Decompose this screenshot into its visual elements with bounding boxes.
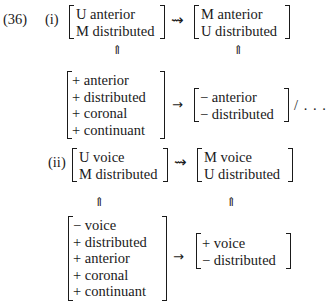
rule-left-matrix-ii: U voice M distributed xyxy=(72,148,168,182)
matrix-row: M distributed xyxy=(79,166,158,183)
right-bracket xyxy=(160,5,165,39)
double-up-arrow-icon: ⇑ xyxy=(94,196,104,208)
matrix-row: − distributed xyxy=(200,106,274,123)
rule-right-matrix-i: M anterior U distributed xyxy=(194,5,290,39)
matrix-row: U anterior xyxy=(76,6,155,23)
right-arrow-icon: → xyxy=(173,250,184,263)
example-number: (36) xyxy=(3,12,27,27)
rule-left-matrix-i: U anterior M distributed xyxy=(69,5,165,39)
matrix-row: − anterior xyxy=(200,89,274,106)
matrix-row: + distributed xyxy=(73,234,147,251)
matrix-row: + coronal xyxy=(73,267,147,284)
matrix-row: + anterior xyxy=(72,72,146,89)
right-bracket xyxy=(286,233,291,269)
output-matrix-i: − anterior − distributed xyxy=(194,88,289,122)
input-matrix-ii: − voice + distributed + anterior + coron… xyxy=(68,216,167,301)
part-label-ii: (ii) xyxy=(48,155,66,170)
right-bracket xyxy=(163,148,168,182)
double-up-arrow-icon: ⇑ xyxy=(112,44,122,56)
left-bracket xyxy=(194,5,199,39)
right-arrow-icon: → xyxy=(172,98,183,111)
matrix-row: U distributed xyxy=(201,23,277,40)
matrix-row: + continuant xyxy=(72,122,146,139)
context-ellipsis: / . . . xyxy=(294,98,327,113)
rule-right-matrix-ii: M voice U distributed xyxy=(197,148,293,182)
input-matrix-i: + anterior + distributed + coronal + con… xyxy=(67,71,165,139)
matrix-row: U voice xyxy=(79,149,158,166)
left-bracket xyxy=(196,233,201,269)
left-bracket xyxy=(72,148,77,182)
right-bracket xyxy=(285,5,290,39)
matrix-row: + coronal xyxy=(72,105,146,122)
matrix-row: + continuant xyxy=(73,283,147,300)
matrix-row: M voice xyxy=(204,149,280,166)
matrix-row: + voice xyxy=(202,235,276,252)
left-bracket xyxy=(194,88,199,122)
squiggly-arrow-icon: ⇝ xyxy=(174,155,187,170)
matrix-row: U distributed xyxy=(204,166,280,183)
matrix-row: − distributed xyxy=(202,252,276,269)
matrix-row: M anterior xyxy=(201,6,277,23)
matrix-row: + anterior xyxy=(73,250,147,267)
part-label-i: (i) xyxy=(45,12,59,27)
matrix-row: − voice xyxy=(73,217,147,234)
left-bracket xyxy=(197,148,202,182)
double-up-arrow-icon: ⇑ xyxy=(233,44,243,56)
output-matrix-ii: + voice − distributed xyxy=(196,233,291,269)
matrix-row: M distributed xyxy=(76,23,155,40)
right-bracket xyxy=(288,148,293,182)
right-bracket xyxy=(284,88,289,122)
squiggly-arrow-icon: ⇝ xyxy=(171,13,184,28)
matrix-row: + distributed xyxy=(72,89,146,106)
left-bracket xyxy=(69,5,74,39)
right-bracket xyxy=(160,71,165,139)
right-bracket xyxy=(162,216,167,301)
double-up-arrow-icon: ⇑ xyxy=(226,196,236,208)
